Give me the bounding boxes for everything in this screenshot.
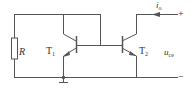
- t1-label-sub: 1: [52, 51, 55, 57]
- t1-emitter-arrow-icon: [63, 51, 70, 57]
- current-arrow-icon: [152, 12, 160, 17]
- t2-label-sub: 2: [145, 51, 148, 57]
- voltage-subscript: ce: [169, 52, 174, 58]
- plus-terminal: +: [178, 9, 184, 19]
- ground-junction-dot: [62, 76, 66, 80]
- resistor-body: [12, 38, 18, 59]
- t2-collector: [122, 34, 137, 41]
- circuit-diagram: R T1 T2 uce io + −: [0, 0, 193, 92]
- t2-emitter-arrow-icon: [129, 51, 136, 56]
- output-current-label: io: [156, 1, 162, 11]
- transistor-2-label: T2: [139, 46, 148, 57]
- output-voltage-label: uce: [164, 48, 174, 58]
- current-subscript: o: [159, 5, 162, 11]
- minus-terminal: −: [178, 72, 184, 82]
- circuit-schematic: [0, 0, 193, 92]
- resistor-label: R: [19, 47, 25, 57]
- transistor-1-label: T1: [46, 46, 55, 57]
- t1-collector: [64, 34, 77, 41]
